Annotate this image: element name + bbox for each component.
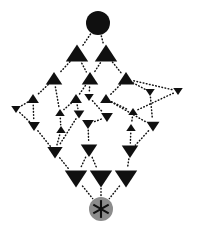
lattice-graph-canvas — [0, 0, 198, 232]
filled-circle-icon — [86, 11, 110, 35]
lattice-diagram — [0, 0, 198, 232]
node-circle-top — [86, 11, 110, 35]
node-asterisk-bottom — [89, 197, 113, 221]
